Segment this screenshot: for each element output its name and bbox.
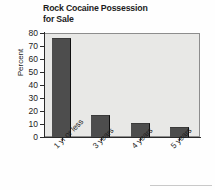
y-axis-tick [40,46,44,47]
chart-title-line-1: Rock Cocaine Possession [43,2,148,13]
y-axis-tick-label: 40 [18,85,38,93]
y-axis-tick-label: 10 [18,124,38,132]
y-axis-tick-label: 20 [18,111,38,119]
y-axis-tick [40,85,44,86]
y-axis-tick [40,59,44,60]
chart-title: Rock Cocaine Possession for Sale [43,3,190,24]
y-axis-tick-label: 0 [18,137,38,145]
bar-chart-figure: Rock Cocaine Possession for Sale Percent… [0,0,215,190]
y-axis-tick-label-text: 40 [18,81,38,89]
y-axis-tick [40,33,44,34]
y-axis-tick-label-text: 60 [18,55,38,63]
y-axis-tick-label: 30 [18,98,38,106]
y-axis-tick-label-text: 50 [18,68,38,76]
y-axis-tick-label: 80 [18,33,38,41]
y-axis-tick-label-text: 70 [18,42,38,50]
y-axis-tick-label-text: 20 [18,107,38,115]
y-axis-tick-label-text: 80 [18,29,38,37]
y-axis-tick-label-text: 0 [18,133,38,141]
bar [52,38,71,137]
y-axis-tick [40,72,44,73]
y-axis-tick-label-text: 10 [18,120,38,128]
y-axis-line [44,32,45,138]
chart-title-line-2: for Sale [43,13,74,24]
y-axis-tick-label: 70 [18,46,38,54]
y-axis-tick [40,111,44,112]
y-axis-tick-label: 50 [18,72,38,80]
y-axis-tick [40,98,44,99]
y-axis-tick-label-text: 30 [18,94,38,102]
y-axis-tick-label: 60 [18,59,38,67]
y-axis-tick [40,124,44,125]
scan-artifact-line [150,185,212,186]
y-axis-tick [40,137,44,138]
